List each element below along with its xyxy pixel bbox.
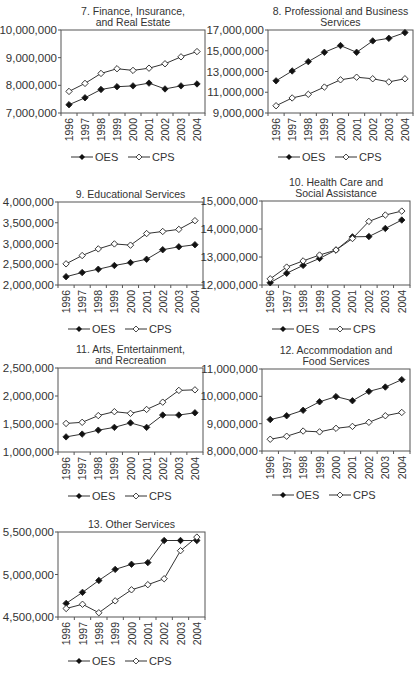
- x-tick-label: 1996: [60, 622, 72, 646]
- y-tick-label: 4,500,000: [3, 611, 54, 623]
- chart-other-services: 13. Other Services4,500,0005,000,0005,50…: [0, 0, 416, 673]
- oes-marker-icon: [128, 561, 134, 567]
- x-tick-label: 1997: [77, 622, 89, 646]
- x-tick-label: 2002: [158, 622, 170, 646]
- legend-oes-label: OES: [92, 655, 115, 667]
- y-tick-label: 5,500,000: [3, 526, 54, 538]
- oes-marker-icon: [112, 566, 118, 572]
- cps-marker-icon: [63, 605, 69, 611]
- x-tick-label: 2000: [126, 622, 138, 646]
- x-tick-label: 2001: [142, 622, 154, 646]
- cps-marker-icon: [128, 587, 134, 593]
- oes-legend-icon: [76, 658, 82, 664]
- legend-cps-label: CPS: [149, 655, 172, 667]
- legend: OESCPS: [68, 655, 172, 667]
- x-tick-label: 2003: [175, 622, 187, 646]
- chart-title: 13. Other Services: [88, 518, 175, 530]
- x-tick-label: 2004: [191, 622, 203, 646]
- x-tick-label: 1998: [93, 622, 105, 646]
- cps-marker-icon: [161, 576, 167, 582]
- series-line-oes: [66, 541, 197, 604]
- y-tick-label: 5,000,000: [3, 569, 54, 581]
- cps-marker-icon: [79, 601, 85, 607]
- series-line-cps: [66, 537, 197, 613]
- cps-legend-icon: [133, 658, 139, 664]
- cps-marker-icon: [145, 582, 151, 588]
- oes-marker-icon: [177, 537, 183, 543]
- x-tick-label: 1999: [109, 622, 121, 646]
